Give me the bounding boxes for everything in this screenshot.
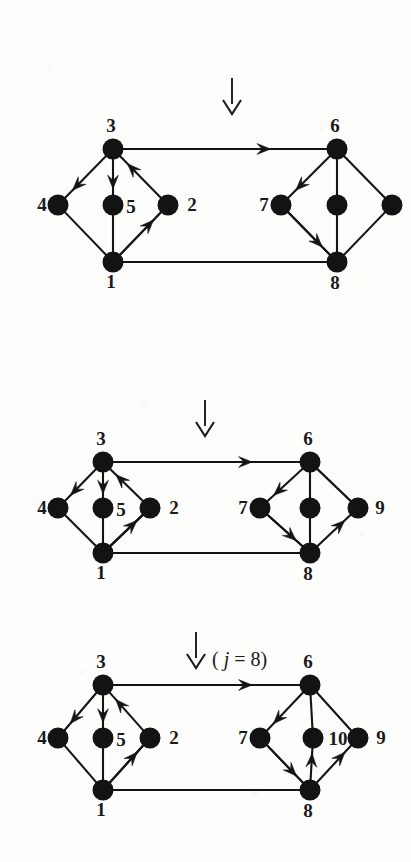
figure-page: 3452167834521679834521671098( j = 8) — [0, 0, 411, 862]
node-label-7: 7 — [259, 194, 269, 215]
graph-stage-3: 34521671098 — [37, 651, 386, 821]
node-2[interactable] — [140, 728, 161, 749]
edge-8-to-9 — [316, 744, 352, 784]
edge-7-to-8 — [287, 211, 331, 256]
node-label-10: 10 — [329, 728, 348, 749]
node-3[interactable] — [93, 452, 114, 473]
node-label-1: 1 — [96, 799, 106, 820]
node-5[interactable] — [103, 195, 124, 216]
node-4[interactable] — [48, 498, 69, 519]
edge-2-to-3 — [109, 468, 144, 502]
node-8[interactable] — [327, 252, 348, 273]
node-7[interactable] — [250, 728, 271, 749]
node-label-5: 5 — [116, 499, 126, 520]
node-label-5: 5 — [126, 196, 136, 217]
node-5[interactable] — [93, 728, 114, 749]
edge-n6-n9 — [316, 691, 353, 731]
node-9[interactable] — [348, 498, 369, 519]
node-label-2: 2 — [169, 727, 179, 748]
node-2[interactable] — [140, 498, 161, 519]
node-layer: 345216798 — [37, 428, 385, 584]
node-label-5: 5 — [116, 729, 126, 750]
node-label-7: 7 — [238, 727, 248, 748]
edge-6-to-7 — [266, 468, 303, 502]
edge-n4-n1 — [64, 211, 107, 256]
node-label-4: 4 — [37, 194, 47, 215]
node-label-6: 6 — [330, 115, 340, 136]
node-nc[interactable] — [327, 195, 348, 216]
node-label-9: 9 — [376, 727, 386, 748]
node-label-8: 8 — [303, 800, 313, 821]
edge-n4-n1 — [64, 744, 98, 783]
edge-7-to-8 — [266, 514, 303, 548]
edge-2-to-3 — [119, 155, 162, 199]
node-4[interactable] — [48, 728, 69, 749]
edge-3-to-4 — [64, 468, 97, 502]
graph-stage-2: 345216798 — [37, 428, 385, 584]
node-label-4: 4 — [37, 727, 47, 748]
node-label-1: 1 — [106, 271, 116, 292]
node-label-8: 8 — [330, 272, 340, 293]
edge-6-to-7 — [266, 691, 304, 732]
node-8[interactable] — [300, 543, 321, 564]
edge-8-to-9 — [316, 514, 352, 547]
node-7[interactable] — [250, 498, 271, 519]
node-nc[interactable] — [300, 498, 321, 519]
node-2[interactable] — [158, 195, 179, 216]
edge-7-to-8 — [266, 744, 304, 784]
node-layer: 34521678 — [37, 115, 402, 293]
node-label-4: 4 — [37, 497, 47, 518]
step-arrow-3-label: ( j = 8) — [212, 648, 267, 671]
node-label-2: 2 — [169, 497, 179, 518]
step-arrow-layer: ( j = 8) — [187, 78, 267, 671]
node-label-7: 7 — [238, 497, 248, 518]
node-9[interactable] — [348, 728, 369, 749]
edge-n6-n10 — [310, 693, 312, 729]
node-6[interactable] — [300, 452, 321, 473]
node-6[interactable] — [300, 675, 321, 696]
edge-6-to-7 — [287, 155, 331, 199]
node-1[interactable] — [103, 252, 124, 273]
edge-1-to-2 — [109, 514, 144, 547]
edge-n6-nr — [343, 155, 386, 199]
edge-3-to-4 — [64, 691, 98, 731]
node-label-3: 3 — [96, 651, 106, 672]
edge-8-to-10 — [310, 746, 312, 781]
edge-nr-n8 — [343, 211, 386, 256]
node-10[interactable] — [303, 728, 324, 749]
node-3[interactable] — [93, 675, 114, 696]
edge-1-to-2 — [119, 211, 162, 256]
edge-2-to-3 — [109, 691, 145, 731]
edge-n6-n9 — [316, 468, 352, 502]
node-label-9: 9 — [375, 497, 385, 518]
node-label-3: 3 — [106, 115, 116, 136]
node-6[interactable] — [327, 139, 348, 160]
node-8[interactable] — [300, 780, 321, 801]
node-label-8: 8 — [303, 563, 313, 584]
node-label-3: 3 — [96, 428, 106, 449]
node-3[interactable] — [103, 139, 124, 160]
node-label-6: 6 — [303, 651, 313, 672]
node-label-1: 1 — [96, 562, 106, 583]
node-nr[interactable] — [382, 195, 403, 216]
node-label-2: 2 — [187, 194, 197, 215]
node-4[interactable] — [48, 195, 69, 216]
node-label-6: 6 — [303, 428, 313, 449]
graph-stage-1: 34521678 — [37, 115, 402, 293]
edge-n4-n1 — [64, 514, 97, 547]
node-5[interactable] — [93, 498, 114, 519]
edge-3-to-4 — [64, 155, 107, 199]
edge-1-to-2 — [109, 744, 145, 783]
node-layer: 34521671098 — [37, 651, 386, 821]
graph-transformation-figure: 3452167834521679834521671098( j = 8) — [0, 0, 411, 862]
node-1[interactable] — [93, 780, 114, 801]
node-7[interactable] — [271, 195, 292, 216]
node-1[interactable] — [93, 543, 114, 564]
